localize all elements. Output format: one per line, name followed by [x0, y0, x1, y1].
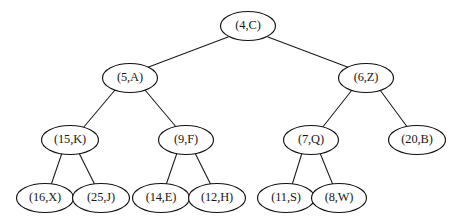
node-label: (5,A)	[117, 70, 143, 84]
tree-edge	[320, 153, 333, 185]
tree-edge	[322, 90, 352, 128]
tree-node[interactable]: (9,F)	[159, 126, 214, 155]
tree-node[interactable]: (11,S)	[258, 184, 315, 213]
tree-node[interactable]: (14,E)	[133, 184, 190, 213]
tree-edge	[51, 153, 62, 185]
tree-node[interactable]: (20,B)	[389, 126, 446, 155]
node-label: (20,B)	[401, 132, 432, 146]
tree-edge	[146, 37, 228, 68]
node-label: (25,J)	[87, 190, 115, 204]
tree-node[interactable]: (16,X)	[17, 184, 74, 213]
tree-edge	[79, 153, 95, 185]
tree-edge	[83, 90, 115, 128]
node-label: (14,E)	[146, 190, 177, 204]
edges-layer	[51, 37, 408, 185]
tree-node[interactable]: (25,J)	[73, 184, 130, 213]
node-label: (12,H)	[201, 190, 233, 204]
node-label: (16,X)	[29, 190, 61, 204]
tree-node[interactable]: (12,H)	[189, 184, 246, 213]
tree-canvas: (4,C)(5,A)(6,Z)(15,K)(9,F)(7,Q)(20,B)(16…	[0, 0, 469, 224]
tree-edge	[292, 153, 302, 185]
node-label: (8,W)	[325, 190, 354, 204]
tree-node[interactable]: (15,K)	[42, 126, 99, 155]
tree-edge	[166, 153, 177, 185]
tree-node[interactable]: (6,Z)	[339, 64, 394, 93]
tree-node[interactable]: (5,A)	[103, 64, 158, 93]
node-label: (6,Z)	[354, 70, 379, 84]
tree-edge	[145, 90, 177, 128]
node-label: (4,C)	[235, 18, 260, 32]
tree-node[interactable]: (8,W)	[312, 184, 367, 213]
tree-diagram-figure: (4,C)(5,A)(6,Z)(15,K)(9,F)(7,Q)(20,B)(16…	[0, 0, 469, 224]
node-label: (9,F)	[174, 132, 198, 146]
node-label: (7,Q)	[298, 132, 324, 146]
nodes-layer: (4,C)(5,A)(6,Z)(15,K)(9,F)(7,Q)(20,B)(16…	[17, 12, 446, 213]
tree-edge	[380, 90, 408, 128]
tree-node[interactable]: (4,C)	[221, 12, 276, 41]
node-label: (11,S)	[271, 190, 301, 204]
tree-edge	[195, 153, 211, 185]
node-label: (15,K)	[54, 132, 86, 146]
tree-edge	[268, 37, 350, 68]
tree-node[interactable]: (7,Q)	[284, 126, 339, 155]
